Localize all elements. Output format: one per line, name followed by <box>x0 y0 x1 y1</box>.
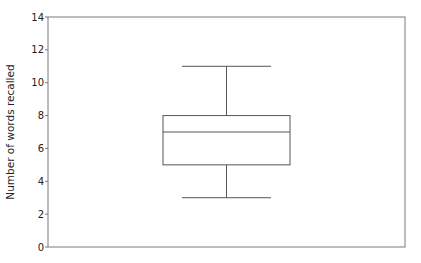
y-tick-label: 14 <box>31 12 44 23</box>
y-tick-label: 6 <box>38 143 44 154</box>
y-tick-label: 2 <box>38 209 44 220</box>
y-tick-label: 4 <box>38 176 44 187</box>
interquartile-box <box>163 116 290 165</box>
y-tick-label: 8 <box>38 110 44 121</box>
y-tick-label: 12 <box>31 44 44 55</box>
y-tick-label: 10 <box>31 77 44 88</box>
y-axis-ticks: 02468101214 <box>31 12 48 253</box>
box-group <box>163 66 290 197</box>
box-plot: 02468101214 <box>0 0 421 263</box>
box-plot-boxes <box>163 66 290 197</box>
y-tick-label: 0 <box>38 242 44 253</box>
